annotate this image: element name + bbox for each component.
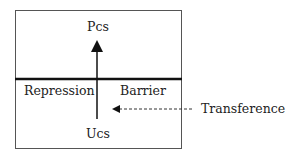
barrier-label: Barrier [120, 83, 166, 98]
pcs-label: Pcs [87, 19, 109, 34]
diagram-canvas [0, 0, 297, 157]
repression-label: Repression [24, 83, 95, 98]
transference-label: Transference [201, 101, 285, 116]
ucs-label: Ucs [86, 126, 110, 141]
